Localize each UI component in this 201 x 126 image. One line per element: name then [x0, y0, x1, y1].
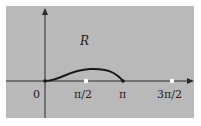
tick-label-3pi-over-2: 3π/2 [157, 88, 182, 101]
origin-label: 0 [33, 88, 40, 101]
open-point-3pi-over-2 [170, 79, 174, 83]
region-label: R [79, 34, 89, 48]
region-diagram: R 0 π/2 π 3π/2 [0, 0, 201, 126]
origin-point [43, 79, 47, 83]
tick-label-pi-over-2: π/2 [74, 88, 92, 101]
pi-point [121, 79, 125, 83]
tick-label-pi: π [119, 88, 126, 101]
open-point-pi-over-2 [84, 79, 88, 83]
gray-panel [6, 6, 194, 118]
